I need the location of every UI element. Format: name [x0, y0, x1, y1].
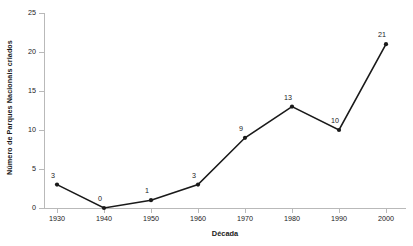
data-point-label: 0 — [88, 194, 112, 203]
data-point-label: 3 — [182, 171, 206, 180]
series-line — [57, 44, 386, 208]
data-point-marker — [290, 105, 294, 109]
data-point-marker — [149, 198, 153, 202]
series-plot — [0, 0, 413, 246]
line-chart: Número de Parques Nacionais criados 0510… — [0, 0, 413, 246]
data-point-label: 3 — [41, 171, 65, 180]
data-point-marker — [102, 206, 106, 210]
data-point-marker — [384, 42, 388, 46]
data-point-label: 21 — [370, 30, 394, 39]
data-point-label: 9 — [229, 124, 253, 133]
data-point-label: 10 — [323, 116, 347, 125]
data-point-marker — [196, 183, 200, 187]
data-point-label: 1 — [135, 186, 159, 195]
data-point-marker — [337, 128, 341, 132]
data-point-marker — [243, 136, 247, 140]
data-point-label: 13 — [276, 93, 300, 102]
data-point-marker — [55, 183, 59, 187]
x-axis-title: Década — [44, 229, 406, 238]
series-markers — [55, 42, 388, 210]
